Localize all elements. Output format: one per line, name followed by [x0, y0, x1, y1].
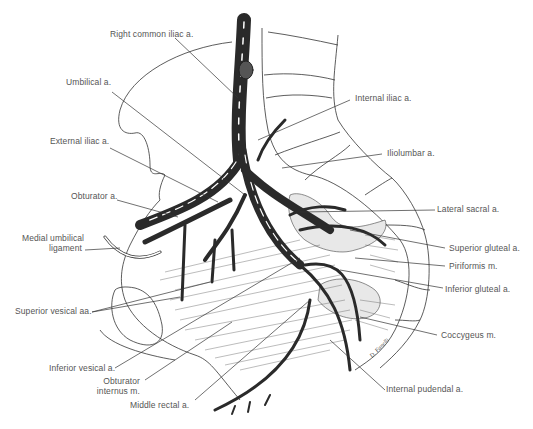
label-piriformis: Piriformis m. [449, 261, 498, 271]
label-medial-umbilical-ligament: Medial umbilical ligament [22, 233, 82, 253]
label-obturator: Obturator a. [71, 191, 118, 201]
label-lateral-sacral: Lateral sacral a. [437, 204, 499, 214]
label-inferior-gluteal: Inferior gluteal a. [445, 284, 510, 294]
label-middle-rectal: Middle rectal a. [130, 400, 189, 410]
label-obturator-internus-line2: internus m. [90, 386, 140, 396]
label-umbilical: Umbilical a. [66, 77, 111, 87]
label-internal-pudendal: Internal pudendal a. [386, 384, 463, 394]
piriformis-muscle [289, 194, 386, 252]
artery-tree [105, 20, 385, 414]
label-inferior-vesical: Inferior vesical a. [49, 363, 115, 373]
label-right-common-iliac: Right common iliac a. [110, 29, 193, 39]
superior-vesical-2 [212, 240, 215, 282]
superior-vesical-3 [232, 230, 234, 270]
anatomy-figure: D. Fanelli Right common iliac a. Umbilic… [0, 0, 533, 429]
label-external-iliac: External iliac a. [50, 136, 109, 146]
label-superior-gluteal: Superior gluteal a. [449, 243, 520, 253]
label-obturator-internus-line1: Obturator [90, 376, 140, 386]
label-obturator-internus: Obturator internus m. [90, 376, 140, 396]
artist-signature: D. Fanelli [368, 337, 391, 360]
obturator-foramen [112, 287, 163, 345]
label-internal-iliac: Internal iliac a. [355, 93, 412, 103]
label-medial-umbilical-line2: ligament [22, 243, 82, 253]
iliac-crest-outline [119, 42, 240, 400]
iliolumbar-artery [258, 120, 285, 160]
label-medial-umbilical-line1: Medial umbilical [22, 233, 82, 243]
external-iliac-artery [140, 160, 240, 225]
pelvic-inlet [100, 330, 175, 360]
label-coccygeus: Coccygeus m. [441, 330, 496, 340]
label-iliolumbar: Iliolumbar a. [387, 148, 435, 158]
label-superior-vesical: Superior vesical aa. [15, 306, 92, 316]
